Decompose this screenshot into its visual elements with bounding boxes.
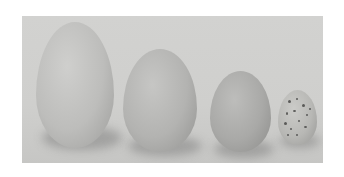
- egg-2: [123, 49, 197, 152]
- egg-4-speckled: [278, 90, 317, 145]
- egg-photo: [22, 16, 323, 163]
- egg-3: [210, 71, 271, 152]
- egg-1: [36, 22, 114, 148]
